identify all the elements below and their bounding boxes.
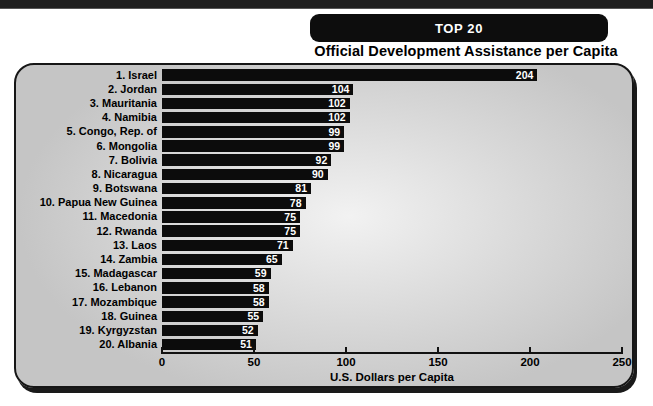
bar: 102 xyxy=(162,98,350,110)
chart-title-block: TOP 20 Official Development Assistance p… xyxy=(299,14,633,59)
axis-tick-mark xyxy=(253,347,255,354)
bar: 99 xyxy=(162,140,344,152)
bar-row: 11. Macedonia75 xyxy=(30,210,632,224)
category-label: 4. Namibia xyxy=(30,112,162,123)
category-label: 6. Mongolia xyxy=(30,141,162,152)
title-box: TOP 20 xyxy=(310,14,608,42)
bar-row: 9. Botswana81 xyxy=(30,182,632,196)
category-label: 7. Bolivia xyxy=(30,155,162,166)
bar-track: 75 xyxy=(162,211,622,223)
bar-row: 4. Namibia102 xyxy=(30,111,632,125)
bar-track: 58 xyxy=(162,282,622,294)
axis-tick-label: 150 xyxy=(428,357,447,369)
bar: 81 xyxy=(162,183,311,195)
bar-track: 51 xyxy=(162,339,622,351)
bar: 204 xyxy=(162,69,537,81)
bar-value-label: 75 xyxy=(284,212,300,223)
axis-tick-mark xyxy=(621,347,623,354)
bar-track: 75 xyxy=(162,225,622,237)
bar: 102 xyxy=(162,112,350,124)
bar-value-label: 99 xyxy=(328,141,344,152)
bar-track: 102 xyxy=(162,98,622,110)
category-label: 14. Zambia xyxy=(30,254,162,265)
bar: 92 xyxy=(162,154,331,166)
bar: 90 xyxy=(162,169,328,181)
bar-row: 1. Israel204 xyxy=(30,68,632,82)
axis-tick-label: 0 xyxy=(159,357,165,369)
bar-row: 18. Guinea55 xyxy=(30,309,632,323)
bar: 55 xyxy=(162,311,263,323)
bar-track: 92 xyxy=(162,154,622,166)
bar-row: 20. Albania51 xyxy=(30,338,632,352)
bar-track: 78 xyxy=(162,197,622,209)
axis-tick-label: 100 xyxy=(336,357,355,369)
category-label: 11. Macedonia xyxy=(30,211,162,222)
category-label: 19. Kyrgyzstan xyxy=(30,325,162,336)
category-label: 18. Guinea xyxy=(30,311,162,322)
bar: 78 xyxy=(162,197,306,209)
bar-row: 6. Mongolia99 xyxy=(30,139,632,153)
bar-track: 52 xyxy=(162,325,622,337)
bar-value-label: 90 xyxy=(312,169,328,180)
bar-value-label: 102 xyxy=(328,112,350,123)
page-top-rule xyxy=(0,0,653,9)
bar-row: 10. Papua New Guinea78 xyxy=(30,196,632,210)
bar-row: 16. Lebanon58 xyxy=(30,281,632,295)
bar-value-label: 104 xyxy=(332,84,354,95)
bar-value-label: 92 xyxy=(316,155,332,166)
axis-tick-mark xyxy=(161,347,163,354)
bar-track: 90 xyxy=(162,169,622,181)
category-label: 15. Madagascar xyxy=(30,268,162,279)
bar-value-label: 204 xyxy=(516,70,538,81)
bar-value-label: 58 xyxy=(253,283,269,294)
category-label: 12. Rwanda xyxy=(30,226,162,237)
axis-tick-label: 250 xyxy=(612,357,631,369)
bar-row: 15. Madagascar59 xyxy=(30,267,632,281)
x-axis-title: U.S. Dollars per Capita xyxy=(162,371,622,383)
axis-tick-mark xyxy=(437,347,439,354)
bar-row: 5. Congo, Rep. of99 xyxy=(30,125,632,139)
bar-value-label: 55 xyxy=(248,311,264,322)
bar-value-label: 58 xyxy=(253,297,269,308)
chart-title: TOP 20 xyxy=(435,21,483,36)
category-label: 3. Mauritania xyxy=(30,98,162,109)
bar: 71 xyxy=(162,240,293,252)
bar-value-label: 52 xyxy=(242,325,258,336)
bar-row: 2. Jordan104 xyxy=(30,82,632,96)
category-label: 20. Albania xyxy=(30,339,162,350)
bar: 59 xyxy=(162,268,271,280)
category-label: 9. Botswana xyxy=(30,183,162,194)
bar-row: 3. Mauritania102 xyxy=(30,96,632,110)
bar-row: 17. Mozambique58 xyxy=(30,295,632,309)
bar-track: 99 xyxy=(162,140,622,152)
category-label: 17. Mozambique xyxy=(30,297,162,308)
bar-row: 12. Rwanda75 xyxy=(30,224,632,238)
chart-subtitle: Official Development Assistance per Capi… xyxy=(299,43,633,59)
bar: 75 xyxy=(162,211,300,223)
category-label: 10. Papua New Guinea xyxy=(30,197,162,208)
bar-value-label: 99 xyxy=(328,127,344,138)
category-label: 1. Israel xyxy=(30,70,162,81)
axis-tick-mark xyxy=(345,347,347,354)
bar-track: 81 xyxy=(162,183,622,195)
bar-track: 55 xyxy=(162,311,622,323)
page: TOP 20 Official Development Assistance p… xyxy=(0,0,653,406)
bar-row: 19. Kyrgyzstan52 xyxy=(30,323,632,337)
bar: 65 xyxy=(162,254,282,266)
bar: 58 xyxy=(162,282,269,294)
x-axis: U.S. Dollars per Capita 050100150200250 xyxy=(162,352,622,388)
bar-value-label: 78 xyxy=(290,198,306,209)
bar-track: 58 xyxy=(162,296,622,308)
category-label: 8. Nicaragua xyxy=(30,169,162,180)
bar-track: 102 xyxy=(162,112,622,124)
bar-value-label: 71 xyxy=(277,240,293,251)
category-label: 5. Congo, Rep. of xyxy=(30,126,162,137)
category-label: 2. Jordan xyxy=(30,84,162,95)
bar-row: 13. Laos71 xyxy=(30,238,632,252)
axis-tick-mark xyxy=(529,347,531,354)
bar-row: 8. Nicaragua90 xyxy=(30,167,632,181)
bar-value-label: 75 xyxy=(284,226,300,237)
bar-value-label: 81 xyxy=(295,183,311,194)
bar-value-label: 102 xyxy=(328,98,350,109)
axis-tick-label: 200 xyxy=(520,357,539,369)
